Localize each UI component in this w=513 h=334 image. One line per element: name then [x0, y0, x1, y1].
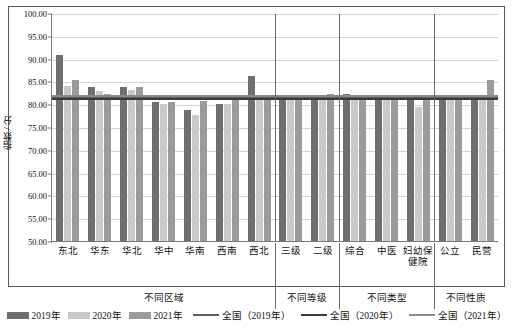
- x-tick-label: 西南: [211, 243, 243, 287]
- x-tick-label: 华中: [148, 243, 180, 287]
- x-tick-label: 华南: [179, 243, 211, 287]
- legend-label: 全国（2021年）: [438, 308, 507, 322]
- x-tick-label: 妇幼保健院: [402, 243, 434, 287]
- legend-label: 全国（2019年）: [222, 308, 291, 322]
- legend-label: 2019年: [32, 308, 61, 322]
- group-separator: [434, 14, 435, 242]
- chart-page: 指数 / 分 50.0055.0060.0065.0070.0075.0080.…: [0, 0, 513, 334]
- legend-item[interactable]: 全国（2021年）: [406, 308, 507, 322]
- x-axis-line: [51, 241, 498, 242]
- legend-item[interactable]: 2019年: [7, 308, 61, 322]
- legend-swatch-icon: [68, 312, 90, 319]
- x-axis-labels: 东北华东华北华中华南西南西北三级二级综合中医妇幼保健院公立民营: [52, 243, 498, 287]
- x-tick-label: 三级: [275, 243, 307, 287]
- y-axis-title: 指数 / 分: [2, 98, 18, 168]
- legend-label: 2020年: [93, 308, 122, 322]
- legend-item[interactable]: 2021年: [129, 308, 183, 322]
- x-tick-label: 东北: [52, 243, 84, 287]
- x-tick-label: 民营: [466, 243, 498, 287]
- legend-line-icon: [301, 314, 327, 316]
- x-tick-label: 公立: [434, 243, 466, 287]
- legend-item[interactable]: 全国（2019年）: [190, 308, 291, 322]
- legend-line-icon: [409, 314, 435, 316]
- legend-swatch-icon: [129, 312, 151, 319]
- legend-label: 2021年: [154, 308, 183, 322]
- x-tick-label: 华东: [84, 243, 116, 287]
- x-tick-label: 中医: [371, 243, 403, 287]
- legend-label: 全国（2020年）: [330, 308, 399, 322]
- x-tick-label: 综合: [339, 243, 371, 287]
- legend-item[interactable]: 2020年: [68, 308, 122, 322]
- legend-line-icon: [193, 314, 219, 316]
- x-tick-label: 华北: [116, 243, 148, 287]
- legend-item[interactable]: 全国（2020年）: [298, 308, 399, 322]
- legend-swatch-icon: [7, 312, 29, 319]
- chart-legend: 2019年2020年2021年全国（2019年）全国（2020年）全国（2021…: [0, 305, 513, 325]
- group-separator: [275, 14, 276, 242]
- x-tick-label: 二级: [307, 243, 339, 287]
- group-separator: [339, 14, 340, 242]
- plot-area: 50.0055.0060.0065.0070.0075.0080.0085.00…: [52, 14, 498, 242]
- x-tick-label: 西北: [243, 243, 275, 287]
- group-separators: [52, 14, 498, 242]
